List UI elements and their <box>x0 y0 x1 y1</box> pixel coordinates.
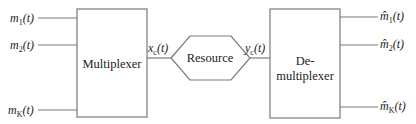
demultiplexer-label-line1: De- <box>270 54 340 69</box>
output-label-2: m̂2(t) <box>380 37 404 56</box>
channel-in-label: xc(t) <box>148 41 168 60</box>
resource-label: Resource <box>180 51 240 66</box>
output-label-k: m̂K(t) <box>380 99 406 118</box>
input-label-k: mK(t) <box>8 103 34 122</box>
channel-out-label: yc(t) <box>245 41 265 60</box>
input-label-2: m2(t) <box>10 38 34 57</box>
demultiplexer-label: De- multiplexer <box>270 54 340 84</box>
multiplexer-label: Multiplexer <box>77 57 147 72</box>
input-label-1: m1(t) <box>10 11 34 30</box>
output-label-1: m̂1(t) <box>380 9 404 28</box>
demultiplexer-label-line2: multiplexer <box>270 69 340 84</box>
